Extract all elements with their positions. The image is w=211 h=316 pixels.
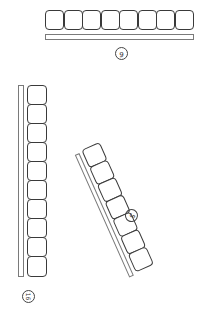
box [27, 123, 47, 143]
box [138, 10, 157, 30]
bar [18, 85, 24, 277]
box [156, 10, 175, 30]
top-group [45, 10, 194, 41]
box [27, 218, 47, 238]
box [119, 10, 138, 30]
box [27, 256, 47, 277]
box [27, 237, 47, 257]
box [27, 180, 47, 200]
left-group [18, 85, 47, 277]
box [82, 10, 101, 30]
box [27, 85, 47, 105]
box [101, 10, 120, 30]
box [27, 104, 47, 124]
bar [45, 34, 194, 40]
box [64, 10, 83, 30]
tilted-group [74, 142, 153, 274]
circled-label-top: 6 [115, 47, 128, 60]
circled-label-left: 16 [22, 290, 35, 303]
box [27, 199, 47, 219]
box [27, 142, 47, 162]
box [45, 10, 64, 30]
box [27, 161, 47, 181]
box [175, 10, 194, 30]
